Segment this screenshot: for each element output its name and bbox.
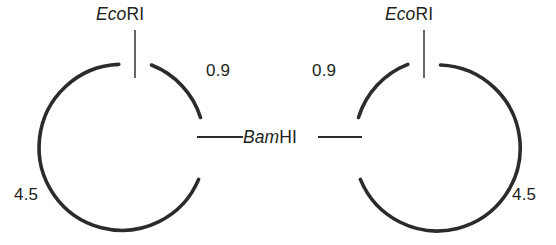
right-plasmid-large-fragment-label: 4.5	[512, 186, 536, 203]
ecori-genus-text: Eco	[96, 4, 126, 24]
plasmid-restriction-map-figure: EcoRI EcoRI BamHI 0.9 4.5 0.9 4.5	[0, 0, 556, 245]
bamhi-suffix-text: HI	[279, 127, 297, 147]
ecori-suffix-text: RI	[126, 4, 144, 24]
right-plasmid-large-arc	[360, 65, 520, 231]
right-plasmid-ecori-label: EcoRI	[385, 6, 433, 24]
left-plasmid-small-arc	[152, 65, 201, 118]
left-plasmid-large-arc	[39, 64, 199, 230]
right-plasmid-small-arc	[359, 64, 408, 117]
left-plasmid-large-fragment-label: 4.5	[14, 186, 38, 203]
left-plasmid-small-fragment-label: 0.9	[206, 62, 230, 79]
ecori-genus-text: Eco	[385, 4, 415, 24]
left-plasmid-ecori-label: EcoRI	[96, 6, 144, 24]
bamhi-label: BamHI	[243, 129, 297, 147]
bamhi-genus-text: Bam	[243, 127, 279, 147]
ecori-suffix-text: RI	[415, 4, 433, 24]
right-plasmid-small-fragment-label: 0.9	[312, 62, 336, 79]
plasmid-diagram-svg	[0, 0, 556, 245]
